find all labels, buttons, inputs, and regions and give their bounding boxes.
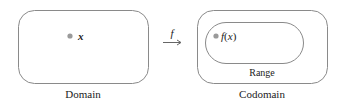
point-x-dot	[67, 33, 72, 38]
mapping-arrow: f	[163, 27, 181, 45]
point-fx-dot	[213, 33, 218, 38]
function-mapping-diagram: x Domain f f(x) Range Codomain	[0, 0, 345, 104]
diagram-svg: x Domain f f(x) Range Codomain	[0, 0, 345, 104]
range-set: f(x) Range	[206, 23, 304, 79]
domain-label: Domain	[65, 88, 101, 100]
domain-set: x Domain	[19, 11, 149, 101]
codomain-label: Codomain	[239, 88, 285, 100]
codomain-set: f(x) Range Codomain	[198, 11, 328, 101]
point-fx-label: f(x)	[221, 30, 237, 43]
range-label: Range	[249, 67, 275, 78]
function-f-label: f	[170, 27, 175, 39]
point-x-label: x	[77, 30, 84, 42]
